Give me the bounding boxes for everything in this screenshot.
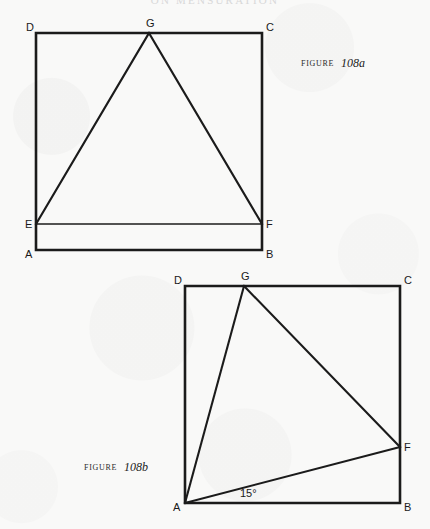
figure-108b-segment-gf bbox=[244, 286, 400, 447]
figures-canvas: D G C E F A B FIGURE 108a D G C F A B 15… bbox=[0, 0, 430, 529]
figure-108a-square-abcd bbox=[36, 33, 262, 250]
figure-108a-segment-gf bbox=[149, 33, 262, 224]
figure-108b-segment-af bbox=[185, 447, 400, 503]
figure-108b-segment-ag bbox=[185, 286, 244, 503]
figure-108a-label-d: D bbox=[26, 21, 34, 33]
figure-108a: D G C E F A B FIGURE 108a bbox=[25, 17, 365, 260]
figure-108a-label-g: G bbox=[146, 17, 155, 29]
figure-108b-caption-number: 108b bbox=[124, 460, 148, 474]
figure-108a-label-e: E bbox=[25, 218, 32, 230]
figure-108a-segment-eg bbox=[36, 33, 149, 224]
figure-108a-caption-number: 108a bbox=[341, 56, 365, 70]
figure-108b: D G C F A B 15° FIGURE 108b bbox=[84, 270, 412, 513]
figure-108a-label-c: C bbox=[266, 21, 274, 33]
figure-108b-label-d: D bbox=[174, 274, 182, 286]
figure-108a-caption-word: FIGURE bbox=[301, 59, 334, 68]
figure-108b-label-b: B bbox=[404, 501, 411, 513]
figure-108b-caption-word: FIGURE bbox=[84, 463, 117, 472]
figure-108b-label-c: C bbox=[404, 274, 412, 286]
figure-108b-label-a: A bbox=[173, 501, 181, 513]
figure-108a-label-f: F bbox=[266, 218, 273, 230]
figure-108b-label-f: F bbox=[404, 441, 411, 453]
figure-108a-label-a: A bbox=[25, 248, 33, 260]
figure-108b-label-g: G bbox=[241, 270, 250, 282]
figure-108a-label-b: B bbox=[266, 248, 273, 260]
figure-108b-square-abcd bbox=[185, 286, 400, 503]
figure-108b-angle-label-15deg: 15° bbox=[240, 487, 257, 499]
